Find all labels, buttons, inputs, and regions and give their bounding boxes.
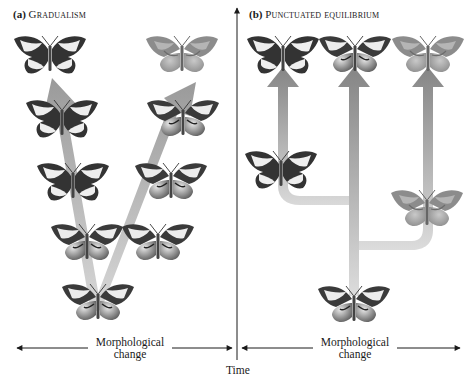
butterfly-a-top-left-icon: [14, 36, 86, 73]
butterfly-b-top-right-icon: [392, 36, 464, 72]
evolution-diagram: [0, 0, 475, 381]
butterfly-b-top-mid-icon: [319, 36, 391, 72]
morph-label-b-line2: change: [315, 348, 395, 360]
gradualism-butterflies: [14, 36, 219, 320]
butterfly-a-top-right-icon: [146, 36, 218, 72]
morph-label-a-line1: Morphological: [90, 336, 170, 348]
branch-left: [267, 67, 349, 210]
trunk-arrow: [338, 67, 370, 296]
morph-label-b: Morphological change: [313, 336, 397, 360]
butterfly-a-r4-right-icon: [122, 224, 194, 260]
time-label: Time: [226, 364, 250, 376]
butterfly-b-top-left-icon: [247, 36, 319, 73]
morph-label-b-line1: Morphological: [315, 336, 395, 348]
butterfly-a-ancestor-icon: [62, 284, 134, 320]
morph-label-a-line2: change: [90, 348, 170, 360]
morph-label-a: Morphological change: [88, 336, 172, 360]
